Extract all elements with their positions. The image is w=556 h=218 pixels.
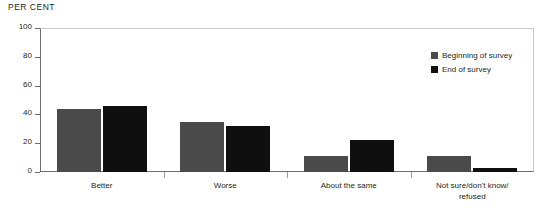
legend-item-label: End of survey [442,65,491,74]
legend-swatch-icon [431,66,438,73]
x-axis-category-label-line: refused [411,191,535,202]
x-axis-category-label-line: Not sure/don't know/ [436,181,509,190]
y-axis-tick-label: 0 [28,166,32,175]
bar [427,156,471,172]
x-axis-category-label: Not sure/don't know/refused [411,180,535,202]
bar [180,122,224,172]
y-axis-tick-label: 20 [23,137,32,146]
bar-chart: PER CENT 020406080100 BetterWorseAbout t… [0,0,556,218]
bar [103,106,147,172]
x-axis-category-label-line: Worse [214,181,237,190]
x-axis-separator-tick [164,172,165,178]
x-axis-category-label-line: About the same [321,181,377,190]
legend-item-label: Beginning of survey [442,51,512,60]
y-axis-tick-label: 80 [23,51,32,60]
y-axis-tick-label: 60 [23,80,32,89]
y-axis-tick-mark [35,172,40,173]
legend: Beginning of survey End of survey [431,49,512,77]
legend-item-end-of-survey[interactable]: End of survey [431,63,512,75]
x-axis-category-label: About the same [287,180,411,191]
bar [226,126,270,172]
x-axis-category-label-line: Better [91,181,112,190]
bar [57,109,101,172]
y-axis-tick-label: 40 [23,108,32,117]
x-axis-separator-tick [287,172,288,178]
bar [304,156,348,172]
bar [350,140,394,172]
bar [473,168,517,172]
x-axis-separator-tick [411,172,412,178]
x-axis-category-label: Worse [164,180,288,191]
x-axis-category-label: Better [40,180,164,191]
y-axis-title: PER CENT [8,2,55,12]
legend-item-beginning-of-survey[interactable]: Beginning of survey [431,49,512,61]
y-axis-tick-label: 100 [19,22,32,31]
legend-swatch-icon [431,52,438,59]
